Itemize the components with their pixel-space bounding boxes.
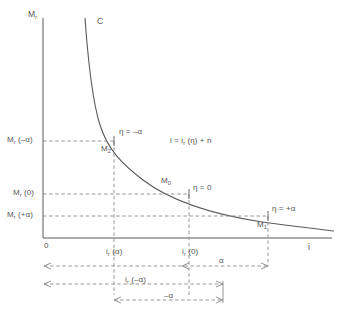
curve-label-c: C bbox=[97, 17, 103, 26]
dim-label-ir-neg-alpha: ir (–α) bbox=[125, 276, 146, 284]
point-label-m0: M0 bbox=[161, 177, 171, 185]
point-label-m1: M1 bbox=[257, 221, 267, 229]
y-tick-mr-pos-alpha: Mr (+α) bbox=[7, 211, 33, 219]
x-tick-ir-alpha: ir (α) bbox=[106, 248, 122, 256]
x-axis-label: i bbox=[308, 243, 310, 252]
point-label-m2: M2 bbox=[101, 145, 111, 153]
diagram-canvas: Mr C i = ir (η) + n Mr (–α) Mr (0) Mr (+… bbox=[0, 0, 341, 323]
diagram-vector-layer bbox=[0, 0, 341, 323]
x-tick-ir-zero: ir (0) bbox=[182, 248, 198, 256]
eta-label-m1: η = +α bbox=[272, 205, 295, 213]
eta-label-m0: η = 0 bbox=[193, 184, 212, 192]
dim-label-alpha: α bbox=[219, 257, 224, 265]
origin-label: 0 bbox=[44, 242, 49, 250]
dim-label-neg-alpha: –α bbox=[164, 292, 173, 300]
equation-label: i = ir (η) + n bbox=[170, 137, 212, 145]
y-axis-label: Mr bbox=[28, 10, 37, 19]
curve-c bbox=[85, 18, 334, 231]
y-tick-mr-zero: Mr (0) bbox=[13, 189, 34, 197]
eta-label-m2: η = –α bbox=[119, 128, 142, 136]
y-tick-mr-neg-alpha: Mr (–α) bbox=[7, 136, 33, 144]
